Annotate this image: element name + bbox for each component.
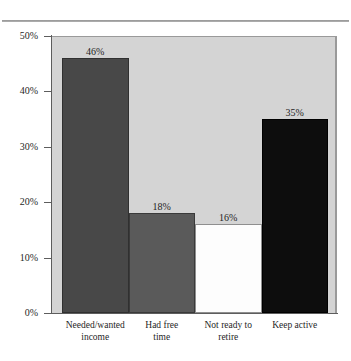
bar-value-label: 35% [262,107,329,118]
x-axis-label-had-free-time: Had free time [129,319,196,343]
bar-needed-wanted-income[interactable] [62,58,129,313]
bar-slot-had-free-time: 18% [129,36,196,313]
cropped-header-text [0,0,351,12]
label-line-2: time [130,331,195,343]
y-axis-label-50: 50% [0,31,38,41]
y-axis-tick [44,202,52,203]
label-line-1: Not ready to [196,319,261,331]
y-axis-tick [44,147,52,148]
y-axis-line [51,35,52,314]
bar-value-label: 18% [129,201,196,212]
bar-chart-figure: 50% 40% 30% 20% 10% 0% 46% 18% 16% 35% N… [0,0,351,361]
label-line-2: income [63,331,128,343]
x-axis-label-keep-active: Keep active [262,319,329,331]
x-axis-category-labels: Needed/wanted income Had free time Not r… [62,319,328,359]
bar-value-label: 46% [62,46,129,57]
label-line-1: Needed/wanted [63,319,128,331]
y-axis-label-0: 0% [0,308,38,318]
y-axis-label-30: 30% [0,142,38,152]
x-axis-label-needed-wanted-income: Needed/wanted income [62,319,129,343]
y-axis-label-40: 40% [0,86,38,96]
bar-had-free-time[interactable] [129,213,196,313]
bar-series: 46% 18% 16% 35% [62,36,328,313]
label-line-1: Keep active [263,319,328,331]
x-axis-label-not-ready-to-retire: Not ready to retire [195,319,262,343]
bar-value-label: 16% [195,212,262,223]
bar-keep-active[interactable] [262,119,329,313]
label-line-2: retire [196,331,261,343]
y-axis-label-10: 10% [0,253,38,263]
y-axis-tick [44,258,52,259]
y-axis-tick [44,313,52,314]
bar-slot-keep-active: 35% [262,36,329,313]
horizontal-rule [2,20,349,22]
bar-not-ready-to-retire[interactable] [195,224,262,313]
y-axis-tick [44,91,52,92]
bar-slot-not-ready-to-retire: 16% [195,36,262,313]
y-axis-tick [44,36,52,37]
label-line-1: Had free [130,319,195,331]
x-axis-line [51,313,338,314]
bar-slot-needed-wanted-income: 46% [62,36,129,313]
y-axis-label-20: 20% [0,197,38,207]
